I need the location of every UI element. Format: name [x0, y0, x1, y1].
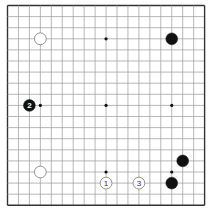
star-point	[104, 104, 107, 107]
star-point	[170, 104, 173, 107]
white-stone[interactable]	[34, 166, 46, 178]
black-stone-disc	[166, 33, 178, 45]
star-point	[170, 170, 173, 173]
move-number-label: 2	[27, 101, 32, 110]
move-number-label: 1	[104, 179, 109, 188]
black-stone[interactable]	[166, 33, 178, 45]
star-point	[104, 37, 107, 40]
black-stone-disc	[166, 177, 178, 189]
move-number-label: 3	[137, 179, 142, 188]
white-stone[interactable]: 1	[100, 177, 112, 189]
white-stone[interactable]: 3	[133, 177, 145, 189]
white-stone-disc	[34, 166, 46, 178]
white-stone[interactable]	[34, 33, 46, 45]
white-stone-disc	[34, 33, 46, 45]
go-board[interactable]: 213	[0, 0, 211, 213]
black-stone[interactable]: 2	[24, 100, 36, 112]
star-point	[39, 104, 42, 107]
black-stone[interactable]	[166, 177, 178, 189]
star-point	[104, 170, 107, 173]
black-stone[interactable]	[177, 155, 189, 167]
black-stone-disc	[177, 155, 189, 167]
